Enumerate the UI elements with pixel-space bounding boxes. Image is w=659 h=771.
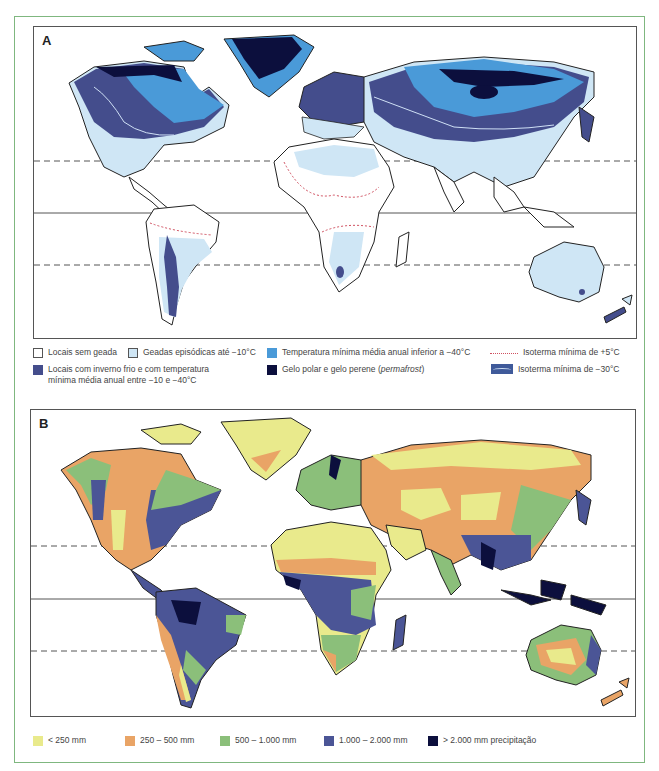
legend-b-gt2000: > 2.000 mm precipitação [428,735,536,746]
legend-a-no-frost: Locais sem geada [33,347,117,358]
legend-a-iso-minus30: Isoterma mínima de −30°C [491,364,619,375]
legend-a-label: Gelo polar e gelo perene (permafrost) [282,364,424,375]
legend-b-500-1000: 500 – 1.000 mm [220,735,296,746]
map-b-precipitation: B [30,409,636,717]
swatch-1000-2000 [324,736,334,746]
legend-a-below-40: Temperatura mínima média anual inferior … [267,347,470,358]
legend-a-iso-plus5: Isoterma mínima de +5°C [490,347,620,358]
legend-b-label: 1.000 – 2.000 mm [339,735,408,746]
legend-a-label: Locais sem geada [48,347,117,358]
legend-b-1000-2000: 1.000 – 2.000 mm [324,735,408,746]
legend-b-label: > 2.000 mm precipitação [443,735,536,746]
legend-b-label: < 250 mm [48,735,86,746]
swatch-episodic-frost [128,348,138,358]
swatch-no-frost [33,348,43,358]
legend-a-label: Locais com inverno frio e com temperatur… [48,364,233,386]
legend-b-lt250: < 250 mm [33,735,86,746]
map-a-world [34,27,636,338]
legend-b-label: 250 – 500 mm [140,735,194,746]
legend-b-250-500: 250 – 500 mm [125,735,194,746]
swatch-250-500 [125,736,135,746]
swatch-permafrost [267,365,277,375]
swatch-below-40 [267,348,277,358]
legend-b-label: 500 – 1.000 mm [235,735,296,746]
legend-a-label: Isoterma mínima de −30°C [518,364,619,375]
map-b-world [31,410,635,716]
legend-a-label: Geadas episódicas até −10°C [143,347,256,358]
legend-a-episodic-frost: Geadas episódicas até −10°C [128,347,256,358]
legend-a-label: Isoterma mínima de +5°C [523,347,620,358]
swatch-cold-winter [33,365,43,375]
swatch-lt250 [33,736,43,746]
legend-a-label: Temperatura mínima média anual inferior … [282,347,470,358]
map-a-frost: A [33,26,637,339]
legend-a-permafrost: Gelo polar e gelo perene (permafrost) [267,364,424,375]
swatch-gt2000 [428,736,438,746]
isotherm-line-icon [491,364,513,374]
dotted-isotherm-icon [490,353,518,354]
swatch-500-1000 [220,736,230,746]
legend-a-cold-winter: Locais com inverno frio e com temperatur… [33,364,233,386]
